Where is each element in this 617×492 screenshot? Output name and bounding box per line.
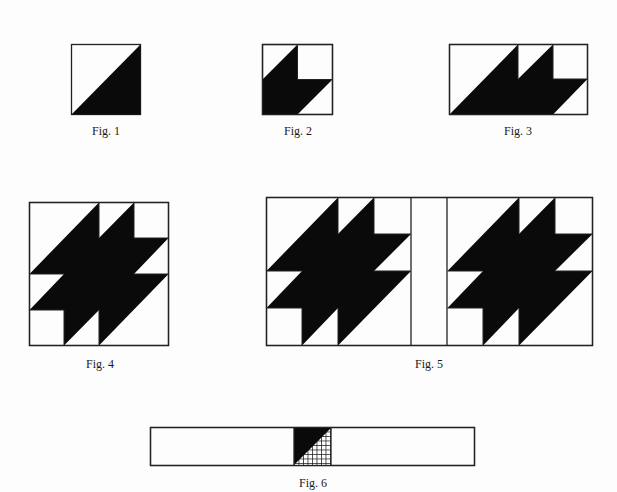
- figure-1: [71, 44, 141, 115]
- figure-1-caption: Fig. 1: [86, 124, 126, 139]
- figure-3-caption: Fig. 3: [498, 124, 538, 139]
- figure-6: [150, 427, 475, 466]
- leaf-unit-diagram: [262, 44, 333, 115]
- figure-6-caption: Fig. 6: [293, 476, 333, 491]
- figure-5: [266, 197, 593, 346]
- figure-5-caption: Fig. 5: [409, 357, 449, 372]
- half-square-triangle-diagram: [71, 44, 141, 115]
- leaf-block-diagram: [29, 202, 169, 346]
- figure-4-caption: Fig. 4: [80, 357, 120, 372]
- two-leaf-units-diagram: [449, 44, 588, 115]
- two-blocks-with-sashing-diagram: [266, 197, 593, 346]
- figure-4: [29, 202, 169, 346]
- figure-2: [262, 44, 333, 115]
- cornerstone: [294, 428, 331, 466]
- sashing-strip-with-cornerstone-diagram: [150, 427, 475, 466]
- figure-2-caption: Fig. 2: [278, 124, 318, 139]
- figure-3: [449, 44, 588, 115]
